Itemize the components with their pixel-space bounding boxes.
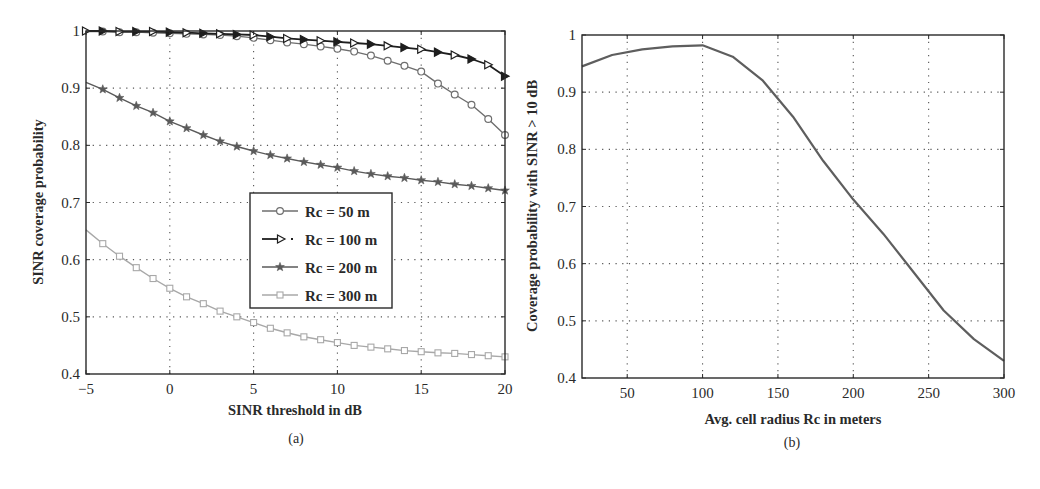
marker-square-icon xyxy=(334,340,340,346)
marker-square-icon xyxy=(351,342,357,348)
marker-circle-icon xyxy=(435,80,442,87)
marker-star-icon xyxy=(417,176,426,184)
marker-circle-icon xyxy=(485,116,492,123)
legend-label-rc100: Rc = 100 m xyxy=(305,232,378,248)
x-tick-label: 300 xyxy=(993,385,1016,401)
legend-label-rc200: Rc = 200 m xyxy=(305,260,378,276)
marker-star-icon xyxy=(199,130,208,138)
marker-circle-icon xyxy=(277,208,284,215)
y-tick-label: 0.9 xyxy=(61,80,80,96)
marker-star-icon xyxy=(467,181,476,189)
marker-square-icon xyxy=(284,330,290,336)
panel-a: −5051015200.40.50.60.70.80.91 SINR thres… xyxy=(30,23,513,447)
series-rc50 xyxy=(86,28,508,138)
marker-square-icon xyxy=(251,320,257,326)
x-tick-label: −5 xyxy=(78,381,94,397)
y-tick-label: 0.6 xyxy=(557,256,576,272)
panel-a-caption: (a) xyxy=(288,431,304,447)
panel-b-xlabel: Avg. cell radius Rc in meters xyxy=(705,411,882,427)
marker-triangle-open-icon xyxy=(351,39,359,47)
marker-square-icon xyxy=(133,265,139,271)
marker-square-icon xyxy=(452,350,458,356)
marker-square-icon xyxy=(277,292,283,298)
panel-b-ticks: 501001502002503000.40.50.60.70.80.91 xyxy=(557,27,1015,401)
panel-a-ylabel: SINR coverage probability xyxy=(30,118,46,284)
marker-star-icon xyxy=(165,117,174,125)
marker-triangle-filled-icon xyxy=(434,48,442,56)
marker-circle-icon xyxy=(368,52,375,59)
marker-circle-icon xyxy=(468,101,475,108)
marker-circle-icon xyxy=(401,62,408,69)
series-coverage-curve xyxy=(582,45,1004,361)
marker-square-icon xyxy=(318,337,324,343)
figure-canvas: −5051015200.40.50.60.70.80.91 SINR thres… xyxy=(0,0,1040,489)
series-line xyxy=(86,32,505,135)
x-tick-label: 200 xyxy=(842,385,865,401)
marker-circle-icon xyxy=(451,91,458,98)
marker-square-icon xyxy=(368,344,374,350)
y-tick-label: 0.5 xyxy=(557,313,576,329)
panel-b-caption: (b) xyxy=(784,435,801,451)
marker-star-icon xyxy=(249,146,258,154)
y-tick-label: 0.4 xyxy=(557,370,576,386)
x-tick-label: 10 xyxy=(330,381,345,397)
marker-star-icon xyxy=(383,172,392,180)
marker-square-icon xyxy=(485,353,491,359)
marker-triangle-open-icon xyxy=(384,42,392,50)
marker-star-icon xyxy=(216,137,225,145)
x-tick-label: 20 xyxy=(498,381,513,397)
marker-square-icon xyxy=(435,350,441,356)
panel-b: 501001502002503000.40.50.60.70.80.91 Avg… xyxy=(524,27,1015,451)
y-tick-label: 0.7 xyxy=(557,199,576,215)
y-tick-label: 1 xyxy=(569,27,577,43)
x-tick-label: 50 xyxy=(620,385,635,401)
y-tick-label: 0.8 xyxy=(61,137,80,153)
marker-star-icon xyxy=(182,124,191,132)
marker-circle-icon xyxy=(384,57,391,64)
marker-star-icon xyxy=(232,142,241,150)
marker-star-icon xyxy=(484,184,493,192)
marker-square-icon xyxy=(234,314,240,320)
marker-star-icon xyxy=(300,157,309,165)
marker-square-icon xyxy=(401,348,407,354)
series-line xyxy=(86,31,505,76)
marker-star-icon xyxy=(316,160,325,168)
marker-star-icon xyxy=(350,166,359,174)
panel-b-plot-frame xyxy=(582,35,1004,378)
marker-square-icon xyxy=(267,325,273,331)
legend-label-rc300: Rc = 300 m xyxy=(305,288,378,304)
marker-star-icon xyxy=(98,85,107,93)
marker-circle-icon xyxy=(334,45,341,52)
y-tick-label: 0.8 xyxy=(557,141,576,157)
marker-square-icon xyxy=(385,346,391,352)
x-tick-label: 5 xyxy=(250,381,258,397)
y-tick-label: 0.6 xyxy=(61,252,80,268)
legend: Rc = 50 m Rc = 100 m Rc = 200 m Rc = 300… xyxy=(250,193,392,308)
series-line xyxy=(86,82,505,190)
panel-a-xlabel: SINR threshold in dB xyxy=(228,402,362,418)
x-tick-label: 100 xyxy=(691,385,714,401)
marker-star-icon xyxy=(149,108,158,116)
series-rc100 xyxy=(83,27,510,80)
marker-triangle-filled-icon xyxy=(367,40,375,48)
y-tick-label: 1 xyxy=(73,23,81,39)
marker-square-icon xyxy=(301,334,307,340)
marker-square-icon xyxy=(167,285,173,291)
marker-star-icon xyxy=(283,154,292,162)
marker-circle-icon xyxy=(351,48,358,55)
marker-star-icon xyxy=(266,150,275,158)
marker-star-icon xyxy=(115,93,124,101)
marker-square-icon xyxy=(150,276,156,282)
legend-label-rc50: Rc = 50 m xyxy=(305,204,370,220)
marker-square-icon xyxy=(418,349,424,355)
marker-star-icon xyxy=(333,163,342,171)
marker-star-icon xyxy=(400,173,409,181)
panel-b-grid xyxy=(582,35,1004,378)
y-tick-label: 0.5 xyxy=(61,309,80,325)
marker-star-icon xyxy=(132,101,141,109)
x-tick-label: 250 xyxy=(917,385,940,401)
x-tick-label: 15 xyxy=(414,381,429,397)
x-tick-label: 150 xyxy=(767,385,790,401)
marker-square-icon xyxy=(184,294,190,300)
marker-star-icon xyxy=(367,169,376,177)
